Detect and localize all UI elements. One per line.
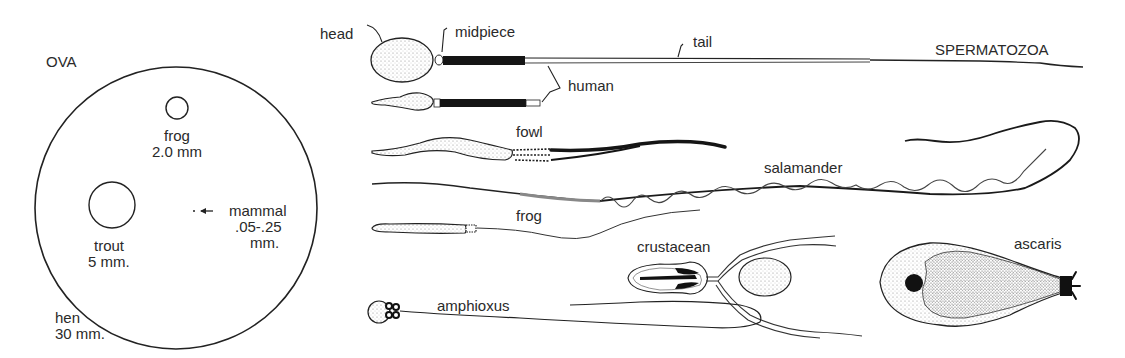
- frog-ovum-circle: [166, 97, 188, 119]
- ascaris-sperm: [880, 243, 1080, 326]
- amphioxus-label: amphioxus: [437, 298, 510, 314]
- head-label: head: [320, 26, 353, 42]
- fowl-sperm: [372, 138, 725, 161]
- frog-ovum-label: frog 2.0 mm: [146, 128, 208, 160]
- trout-ovum-size: 5 mm.: [88, 254, 130, 270]
- frog-ovum-name: frog: [146, 128, 208, 144]
- trout-ovum-name: trout: [88, 238, 130, 254]
- crustacean-label: crustacean: [637, 239, 710, 255]
- trout-ovum-label: trout 5 mm.: [88, 238, 130, 270]
- hen-ovum-name: hen: [55, 310, 105, 326]
- salamander-label: salamander: [764, 160, 842, 176]
- mammal-ovum-name: mammal: [229, 203, 287, 219]
- trout-ovum-circle: [89, 182, 135, 228]
- amphioxus-sperm: [368, 301, 761, 328]
- arrow-icon: [200, 208, 213, 214]
- spermatozoa-title: SPERMATOZOA: [935, 42, 1049, 58]
- frog-ovum-size: 2.0 mm: [146, 144, 208, 160]
- hen-ovum-label: hen 30 mm.: [55, 310, 105, 342]
- ova-title: OVA: [46, 54, 77, 70]
- mammal-ovum-dot: [193, 210, 195, 212]
- tail-label: tail: [693, 34, 712, 50]
- ascaris-label: ascaris: [1014, 236, 1062, 252]
- mammal-ovum-size-2: mm.: [229, 235, 287, 251]
- salamander-sperm: [372, 121, 1079, 207]
- hen-ovum-size: 30 mm.: [55, 326, 105, 342]
- human-label: human: [568, 78, 614, 94]
- mammal-ovum-size-1: .05-.25: [229, 219, 287, 235]
- fowl-label: fowl: [516, 124, 543, 140]
- mammal-ovum-label: mammal .05-.25 mm.: [229, 203, 287, 251]
- frog-sperm-label: frog: [516, 208, 542, 224]
- midpiece-label: midpiece: [455, 24, 515, 40]
